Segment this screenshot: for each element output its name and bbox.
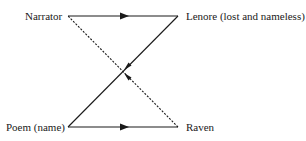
edge-poem-raven [68,124,178,131]
diagram-canvas: Narrator Lenore (lost and nameless) Poem… [0,0,306,141]
node-lenore: Lenore (lost and nameless) [186,10,305,22]
node-raven: Raven [186,121,214,133]
node-narrator: Narrator [25,10,62,22]
arrow-right-icon [120,124,129,131]
edge-narrator-lenore [68,13,178,20]
node-poem: Poem (name) [6,121,65,133]
arrow-right-icon [120,13,129,20]
